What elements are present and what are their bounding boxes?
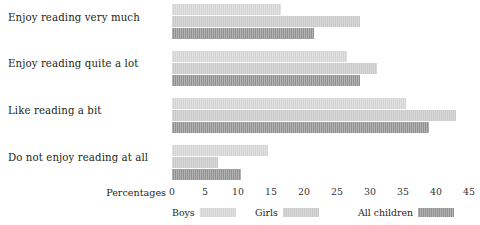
bar-girls <box>172 63 377 74</box>
bar-all-children <box>172 75 360 86</box>
bar-boys <box>172 98 406 109</box>
bar-girls <box>172 16 360 27</box>
x-axis-title: Percentages <box>96 187 166 198</box>
x-axis-tick-label: 15 <box>265 186 277 197</box>
x-axis-tick-label: 40 <box>430 186 442 197</box>
x-axis-tick-label: 35 <box>397 186 409 197</box>
x-axis-tick-label: 30 <box>364 186 376 197</box>
bar-boys <box>172 4 281 15</box>
horizontal-bar-chart: Enjoy reading very much Enjoy reading qu… <box>0 0 480 225</box>
x-axis-tick-label: 45 <box>463 186 475 197</box>
bar-all-children <box>172 28 314 39</box>
bar-girls <box>172 157 218 168</box>
bar-all-children <box>172 169 241 180</box>
legend-color-swatch <box>283 208 319 217</box>
legend-color-swatch <box>418 208 454 217</box>
x-axis-tick-label: 25 <box>331 186 343 197</box>
category-label: Do not enjoy reading at all <box>8 152 166 163</box>
bar-girls <box>172 110 456 121</box>
x-axis-tick-label: 10 <box>232 186 244 197</box>
legend-item[interactable]: Boys <box>172 207 236 218</box>
x-axis-tick-label: 5 <box>202 186 208 197</box>
category-label: Enjoy reading very much <box>8 12 166 23</box>
x-axis-tick-label: 0 <box>169 186 175 197</box>
bar-boys <box>172 145 268 156</box>
category-label: Like reading a bit <box>8 105 166 116</box>
legend-item-label: All children <box>358 207 413 218</box>
category-label: Enjoy reading quite a lot <box>8 58 166 69</box>
legend-item-label: Girls <box>255 207 278 218</box>
x-axis-tick-label: 20 <box>298 186 310 197</box>
legend-item[interactable]: All children <box>358 207 454 218</box>
legend-color-swatch <box>200 208 236 217</box>
legend-item-label: Boys <box>172 207 195 218</box>
legend-item[interactable]: Girls <box>255 207 319 218</box>
bar-boys <box>172 51 347 62</box>
bar-all-children <box>172 122 429 133</box>
